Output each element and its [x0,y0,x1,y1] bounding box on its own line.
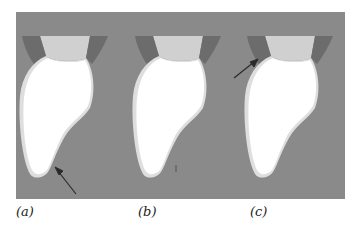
panel-c-tooth [244,36,333,178]
panel-label-a: (a) [16,204,34,219]
panel-b-tooth [132,36,221,178]
arrow-icon-a [55,167,76,194]
panel-a-tooth [19,36,108,178]
panel-label-b: (b) [138,204,156,219]
tooth-figure [0,0,359,235]
panel-label-c: (c) [250,204,267,219]
